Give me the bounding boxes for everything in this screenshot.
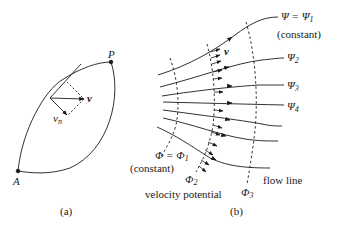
upper-curve-a-to-p	[18, 62, 111, 171]
right-curve-p-to-a	[18, 62, 115, 173]
caption-a: (a)	[60, 206, 72, 217]
psi4-label: Ψ4	[287, 101, 299, 114]
psi1-label: Ψ = Ψ1	[281, 11, 313, 24]
vector-vn-label: vn	[53, 113, 62, 126]
phi3-label: Φ3	[241, 187, 253, 200]
velocity-v-arrow	[50, 98, 84, 99]
psi2-label: Ψ2	[287, 52, 299, 65]
dashed-parallelogram-top	[67, 82, 84, 99]
vector-v-label-b: v	[224, 46, 229, 57]
equipotential-phi3	[246, 22, 256, 185]
phi2-label: Φ2	[185, 174, 197, 187]
vector-v-label: v	[87, 93, 92, 104]
panel-a-figure	[16, 60, 115, 173]
dashed-parallelogram-right	[68, 99, 84, 115]
psi1-note: (constant)	[277, 29, 321, 40]
caption-b: (b)	[230, 206, 243, 217]
psi3-label: Ψ3	[287, 80, 299, 93]
streamline-psi2	[160, 58, 284, 87]
streamline-psi1	[158, 17, 278, 75]
point-p-dot	[109, 60, 113, 64]
streamline-psi4	[163, 102, 284, 105]
point-a-label: A	[13, 176, 20, 187]
streamline-5	[163, 110, 282, 126]
vector-vn-sub: n	[58, 117, 62, 126]
streamline-6	[163, 118, 278, 141]
point-a-dot	[16, 169, 20, 173]
velocity-potential-label: velocity potential	[145, 189, 222, 200]
equipotential-phi2	[196, 44, 214, 172]
tangent-line	[50, 64, 81, 98]
flow-line-label: flow line	[263, 175, 302, 186]
equipotential-phi1	[160, 58, 178, 158]
streamline-psi3	[162, 85, 284, 96]
point-p-label: P	[108, 49, 115, 60]
phi1-note: (constant)	[130, 163, 174, 174]
